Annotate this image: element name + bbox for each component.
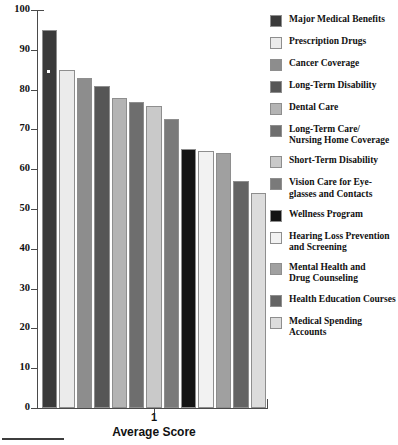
bar (94, 86, 109, 408)
legend-item-label: Long-Term Care/ Nursing Home Coverage (289, 124, 389, 146)
y-axis-tick (31, 90, 38, 91)
legend-item[interactable]: Prescription Drugs (270, 36, 398, 49)
legend-item[interactable]: Short-Term Disability (270, 155, 398, 168)
bar-chart: 1009080706050403020100 1 Average Score (0, 0, 268, 420)
x-axis-tick-label: 1 (134, 411, 174, 423)
y-axis-tick-label: 40 (2, 243, 30, 254)
legend-item-label: Vision Care for Eye- glasses and Contact… (289, 177, 372, 199)
legend-item[interactable]: Major Medical Benefits (270, 14, 398, 27)
legend-item[interactable]: Medical Spending Accounts (270, 316, 398, 338)
legend-item-label: Medical Spending Accounts (289, 316, 398, 338)
legend-item[interactable]: Vision Care for Eye- glasses and Contact… (270, 177, 398, 199)
y-axis-tick (31, 169, 38, 170)
legend-color-swatch (270, 81, 282, 93)
y-axis-tick (31, 289, 38, 290)
y-axis-tick (31, 328, 38, 329)
bar (112, 98, 127, 408)
legend-item-label: Short-Term Disability (289, 155, 378, 166)
legend-color-swatch (270, 59, 282, 71)
y-axis-tick-label: 70 (2, 123, 30, 134)
x-axis-line (37, 408, 268, 409)
chart-legend: Major Medical BenefitsPrescription Drugs… (270, 14, 398, 347)
bar (251, 193, 266, 408)
bar-series (38, 10, 268, 408)
y-axis-tick (31, 209, 38, 210)
legend-item-label: Hearing Loss Prevention and Screening (289, 231, 390, 253)
legend-color-swatch (270, 37, 282, 49)
y-axis-tick-label: 20 (2, 322, 30, 333)
legend-item-label: Major Medical Benefits (289, 14, 385, 25)
legend-item-label: Cancer Coverage (289, 58, 359, 69)
bar (129, 102, 144, 408)
legend-color-swatch (270, 232, 282, 244)
legend-color-swatch (270, 317, 282, 329)
legend-item[interactable]: Mental Health and Drug Counseling (270, 262, 398, 284)
y-axis-tick (31, 50, 38, 51)
bar (198, 151, 213, 408)
legend-item[interactable]: Long-Term Disability (270, 80, 398, 93)
y-axis-tick-label: 100 (2, 4, 30, 15)
legend-item-label: Prescription Drugs (289, 36, 366, 47)
legend-item-label: Dental Care (289, 102, 338, 113)
legend-item-label: Mental Health and Drug Counseling (289, 262, 366, 284)
legend-color-swatch (270, 178, 282, 190)
legend-color-swatch (270, 156, 282, 168)
bar (42, 30, 57, 408)
y-axis-tick (31, 10, 38, 11)
y-axis-tick-label: 0 (2, 402, 30, 413)
legend-color-swatch (270, 210, 282, 222)
bar (59, 70, 74, 408)
legend-color-swatch (270, 263, 282, 275)
legend-item[interactable]: Health Education Courses (270, 294, 398, 307)
y-axis-tick-label: 80 (2, 84, 30, 95)
legend-item[interactable]: Wellness Program (270, 209, 398, 222)
bar (146, 106, 161, 408)
legend-item-label: Long-Term Disability (289, 80, 377, 91)
y-axis-tick-label: 30 (2, 283, 30, 294)
bar (77, 78, 92, 408)
legend-item[interactable]: Dental Care (270, 102, 398, 115)
footer-rule (2, 438, 64, 440)
y-axis-tick (31, 249, 38, 250)
bar (181, 149, 196, 408)
legend-color-swatch (270, 125, 282, 137)
bar (164, 119, 179, 408)
y-axis-tick (31, 129, 38, 130)
y-axis-tick (31, 368, 38, 369)
legend-item-label: Health Education Courses (289, 294, 396, 305)
legend-color-swatch (270, 103, 282, 115)
y-axis-tick-label: 90 (2, 44, 30, 55)
legend-item-label: Wellness Program (289, 209, 363, 220)
legend-item[interactable]: Hearing Loss Prevention and Screening (270, 231, 398, 253)
scan-speck-artifact (47, 70, 50, 73)
legend-color-swatch (270, 15, 282, 27)
bar (233, 181, 248, 408)
y-axis-tick-label: 10 (2, 362, 30, 373)
y-axis-tick-label: 60 (2, 163, 30, 174)
bar (216, 153, 231, 408)
y-axis-tick (31, 408, 38, 409)
y-axis-tick-label: 50 (2, 203, 30, 214)
x-axis-title: Average Score (79, 425, 229, 439)
legend-item[interactable]: Long-Term Care/ Nursing Home Coverage (270, 124, 398, 146)
legend-color-swatch (270, 295, 282, 307)
legend-item[interactable]: Cancer Coverage (270, 58, 398, 71)
